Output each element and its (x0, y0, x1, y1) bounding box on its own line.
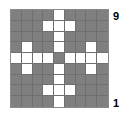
grid-cell (43, 32, 54, 43)
grid-cell (65, 21, 76, 32)
grid-cell (86, 10, 97, 21)
grid-cell (22, 42, 33, 53)
grid-cell (11, 96, 22, 107)
grid-cell (97, 75, 108, 86)
grid-cell (33, 53, 44, 64)
grid-cell (86, 32, 97, 43)
grid-cell (33, 75, 44, 86)
grid-cell (43, 42, 54, 53)
grid-cell (43, 96, 54, 107)
grid-cell (33, 10, 44, 21)
grid-cell (11, 42, 22, 53)
grid-cell (33, 85, 44, 96)
axis-label-top: 9 (113, 11, 119, 22)
grid-cell (43, 10, 54, 21)
grid-cell (86, 42, 97, 53)
grid-cell (97, 10, 108, 21)
grid-cell (54, 85, 65, 96)
grid-cell (97, 32, 108, 43)
grid-cell (65, 32, 76, 43)
grid-cell (97, 21, 108, 32)
grid-cell (33, 64, 44, 75)
grid-cell (43, 85, 54, 96)
grid-cell (86, 64, 97, 75)
grid-cell (11, 75, 22, 86)
grid-cell (22, 10, 33, 21)
grid-cell (76, 10, 87, 21)
grid-cell (33, 42, 44, 53)
grid-cell (22, 75, 33, 86)
grid-cell (22, 32, 33, 43)
grid-cell (54, 75, 65, 86)
grid-cell (97, 85, 108, 96)
grid-cell (97, 96, 108, 107)
grid-cell (76, 32, 87, 43)
grid-cell (54, 21, 65, 32)
grid-cell (97, 53, 108, 64)
grid-cell (11, 21, 22, 32)
grid-cell (54, 42, 65, 53)
grid-figure: 9 1 (0, 0, 130, 121)
grid-cell (86, 85, 97, 96)
grid-cell (11, 85, 22, 96)
grid-panel (10, 9, 109, 108)
grid-cell (22, 21, 33, 32)
grid-cell (76, 96, 87, 107)
grid-cell (43, 53, 54, 64)
grid-cell (76, 53, 87, 64)
grid-cell (11, 10, 22, 21)
grid-cell (43, 64, 54, 75)
cell-grid (11, 10, 108, 107)
grid-cell (54, 64, 65, 75)
grid-cell (65, 75, 76, 86)
grid-cell (65, 64, 76, 75)
grid-cell (11, 32, 22, 43)
grid-cell (43, 21, 54, 32)
grid-cell (86, 53, 97, 64)
grid-cell (76, 75, 87, 86)
grid-cell (33, 21, 44, 32)
grid-cell (54, 53, 65, 64)
grid-cell (76, 85, 87, 96)
grid-cell (33, 96, 44, 107)
grid-cell (33, 32, 44, 43)
grid-cell (76, 21, 87, 32)
grid-cell (65, 42, 76, 53)
grid-cell (65, 85, 76, 96)
axis-label-bottom: 1 (113, 98, 119, 109)
grid-cell (86, 96, 97, 107)
grid-cell (65, 53, 76, 64)
grid-cell (11, 53, 22, 64)
grid-cell (76, 42, 87, 53)
grid-cell (54, 32, 65, 43)
grid-cell (86, 75, 97, 86)
grid-cell (86, 21, 97, 32)
grid-cell (11, 64, 22, 75)
grid-cell (22, 64, 33, 75)
grid-cell (54, 10, 65, 21)
grid-cell (65, 96, 76, 107)
grid-cell (65, 10, 76, 21)
grid-cell (43, 75, 54, 86)
grid-cell (22, 53, 33, 64)
grid-cell (22, 96, 33, 107)
grid-cell (97, 42, 108, 53)
grid-cell (97, 64, 108, 75)
grid-cell (76, 64, 87, 75)
grid-cell (22, 85, 33, 96)
grid-cell (54, 96, 65, 107)
